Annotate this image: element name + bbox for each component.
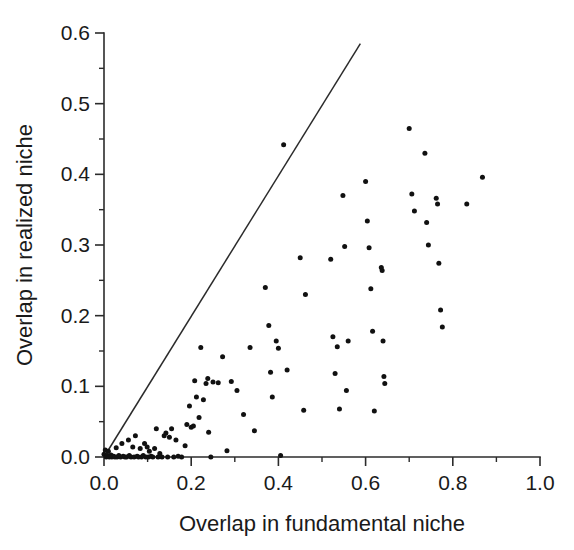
data-point: [130, 445, 135, 450]
data-point: [211, 380, 216, 385]
data-point: [337, 406, 342, 411]
data-point: [191, 423, 196, 428]
data-point: [187, 404, 192, 409]
data-point: [367, 245, 372, 250]
data-point: [424, 220, 429, 225]
data-point: [335, 344, 340, 349]
y-axis-title: Overlap in realized niche: [12, 124, 37, 366]
y-tick-label: 0.0: [61, 445, 90, 468]
data-point: [440, 324, 445, 329]
data-point: [138, 446, 143, 451]
data-point: [382, 381, 387, 386]
data-point: [224, 448, 229, 453]
data-point: [163, 430, 168, 435]
data-point: [194, 394, 199, 399]
data-point: [480, 175, 485, 180]
data-point: [229, 379, 234, 384]
y-tick-label: 0.6: [61, 21, 90, 44]
data-point: [298, 255, 303, 260]
data-point: [159, 455, 164, 460]
data-point: [422, 151, 427, 156]
plot-canvas: 0.00.10.20.30.40.50.60.00.20.40.60.81.0O…: [0, 0, 574, 550]
data-point: [434, 196, 439, 201]
data-point: [330, 334, 335, 339]
data-point: [197, 415, 202, 420]
data-point: [145, 445, 150, 450]
data-point: [241, 412, 246, 417]
data-point: [328, 257, 333, 262]
data-point: [171, 455, 176, 460]
data-point: [173, 438, 178, 443]
data-point: [381, 339, 386, 344]
data-point: [205, 376, 210, 381]
data-point: [346, 339, 351, 344]
data-point: [183, 443, 188, 448]
data-point: [206, 430, 211, 435]
y-tick-label: 0.3: [61, 233, 90, 256]
data-point: [278, 453, 283, 458]
x-tick-label: 0.2: [177, 471, 206, 494]
data-point: [270, 394, 275, 399]
data-point: [436, 261, 441, 266]
data-point: [464, 202, 469, 207]
data-point: [150, 455, 155, 460]
data-point: [333, 371, 338, 376]
data-point: [342, 244, 347, 249]
data-point: [285, 368, 290, 373]
data-point: [412, 209, 417, 214]
y-tick-label: 0.2: [61, 304, 90, 327]
y-tick-label: 0.5: [61, 92, 90, 115]
data-point: [114, 445, 119, 450]
data-point: [248, 345, 253, 350]
data-point: [167, 435, 172, 440]
data-point: [165, 455, 170, 460]
x-tick-label: 0.0: [89, 471, 118, 494]
data-point: [204, 381, 209, 386]
data-point: [152, 446, 157, 451]
data-point: [276, 346, 281, 351]
data-point: [184, 422, 189, 427]
data-point: [363, 179, 368, 184]
data-point: [220, 354, 225, 359]
axis-labels-group: 0.00.10.20.30.40.50.60.00.20.40.60.81.0O…: [12, 21, 555, 536]
data-point: [252, 428, 257, 433]
data-point: [407, 126, 412, 131]
data-point: [126, 438, 131, 443]
y-tick-label: 0.1: [61, 374, 90, 397]
data-point: [133, 433, 138, 438]
data-point: [281, 142, 286, 147]
x-axis-title: Overlap in fundamental niche: [179, 511, 465, 536]
data-point: [234, 388, 239, 393]
axes-group: [95, 33, 540, 466]
data-point: [208, 455, 213, 460]
x-tick-label: 0.4: [264, 471, 294, 494]
x-tick-label: 1.0: [525, 471, 554, 494]
data-point: [370, 329, 375, 334]
data-point: [147, 449, 152, 454]
data-point-series: [102, 126, 485, 460]
data-point: [263, 285, 268, 290]
data-point: [119, 441, 124, 446]
x-tick-label: 0.8: [438, 471, 467, 494]
data-point: [380, 268, 385, 273]
data-point: [179, 455, 184, 460]
data-point: [192, 378, 197, 383]
y-tick-label: 0.4: [61, 162, 91, 185]
data-point: [266, 323, 271, 328]
data-point: [303, 292, 308, 297]
data-point: [381, 374, 386, 379]
data-point: [438, 308, 443, 313]
data-point: [368, 286, 373, 291]
data-point: [372, 409, 377, 414]
one-to-one-reference-line: [104, 44, 360, 457]
data-point: [268, 370, 273, 375]
x-tick-label: 0.6: [351, 471, 380, 494]
data-point: [340, 193, 345, 198]
data-point: [365, 218, 370, 223]
data-point: [301, 408, 306, 413]
one-to-one-line: [104, 44, 360, 457]
data-point: [169, 426, 174, 431]
data-point: [154, 426, 159, 431]
data-point: [201, 397, 206, 402]
data-point: [426, 243, 431, 248]
